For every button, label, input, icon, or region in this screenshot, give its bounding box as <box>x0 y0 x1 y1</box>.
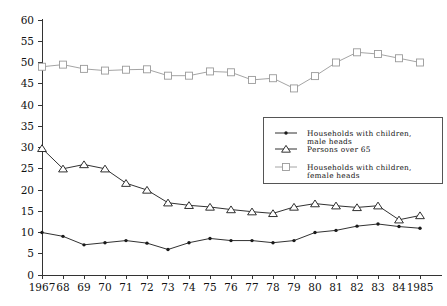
x-tick-label: 75 <box>203 281 216 293</box>
legend-item-label-line2: female heads <box>307 171 360 180</box>
dot-marker-icon <box>208 237 211 240</box>
y-tick-label: 30 <box>21 141 34 153</box>
chart-series-3 <box>39 49 424 92</box>
y-tick-label: 10 <box>21 226 34 238</box>
y-tick-label: 0 <box>27 269 34 281</box>
x-tick-label: 71 <box>119 281 132 293</box>
square-marker-icon <box>333 59 340 66</box>
triangle-marker-icon <box>143 186 152 193</box>
square-marker-icon <box>186 72 193 79</box>
line-chart: 051015202530354045505560 196768697071727… <box>0 0 447 306</box>
x-tick-label: 76 <box>224 281 238 293</box>
dot-marker-icon <box>334 229 337 232</box>
dot-marker-icon <box>376 222 379 225</box>
square-marker-icon <box>81 65 88 72</box>
dot-marker-icon <box>229 239 232 242</box>
triangle-marker-icon <box>38 145 47 152</box>
chart-series-1 <box>40 222 421 251</box>
dot-marker-icon <box>103 241 106 244</box>
series-line <box>42 224 420 250</box>
square-marker-icon <box>312 73 319 80</box>
square-marker-icon <box>375 51 382 58</box>
y-tick-label: 55 <box>21 35 34 47</box>
dot-marker-icon <box>397 225 400 228</box>
dot-marker-icon <box>250 239 253 242</box>
x-tick-label: 1985 <box>407 281 434 293</box>
triangle-marker-icon <box>416 212 425 219</box>
triangle-marker-icon <box>374 202 383 209</box>
square-marker-icon <box>165 72 172 79</box>
x-tick-label: 83 <box>371 281 384 293</box>
chart-container: 051015202530354045505560 196768697071727… <box>0 0 447 306</box>
square-marker-icon <box>249 76 256 83</box>
x-tick-label: 80 <box>308 281 321 293</box>
legend-item-label: Persons over 65 <box>307 145 371 154</box>
x-axis: 1967686970717273747576777879808182838419… <box>29 275 442 293</box>
x-tick-label: 79 <box>287 281 300 293</box>
dot-marker-icon <box>271 241 274 244</box>
y-tick-label: 15 <box>21 205 34 217</box>
dot-marker-icon <box>292 239 295 242</box>
y-tick-label: 5 <box>27 247 34 259</box>
square-marker-icon <box>144 66 151 73</box>
dot-marker-icon <box>187 241 190 244</box>
square-marker-icon <box>39 63 46 70</box>
y-tick-label: 60 <box>21 14 34 26</box>
dot-marker-icon <box>313 231 316 234</box>
dot-marker-icon <box>166 248 169 251</box>
y-tick-label: 40 <box>21 99 34 111</box>
square-marker-icon <box>207 68 214 75</box>
triangle-marker-icon <box>80 161 89 168</box>
y-tick-label: 20 <box>21 184 34 196</box>
square-marker-icon <box>396 55 403 62</box>
triangle-marker-icon <box>311 200 320 207</box>
x-tick-label: 77 <box>245 281 258 293</box>
x-tick-label: 70 <box>98 281 111 293</box>
dot-marker-icon <box>284 131 287 134</box>
square-marker-icon <box>354 49 361 56</box>
x-tick-label: 73 <box>161 281 174 293</box>
x-tick-label: 74 <box>182 281 196 293</box>
y-axis: 051015202530354045505560 <box>21 14 42 281</box>
square-marker-icon <box>291 85 298 92</box>
dot-marker-icon <box>418 227 421 230</box>
x-tick-label: 69 <box>77 281 90 293</box>
square-marker-icon <box>102 67 109 74</box>
y-tick-label: 45 <box>21 77 34 89</box>
y-tick-label: 50 <box>21 56 34 68</box>
y-tick-label: 35 <box>21 120 34 132</box>
square-marker-icon <box>417 59 424 66</box>
x-tick-label: 82 <box>350 281 363 293</box>
x-tick-label: 81 <box>329 281 342 293</box>
chart-legend: Households with children,male headsPerso… <box>263 117 442 183</box>
square-marker-icon <box>228 69 235 76</box>
x-tick-label: 68 <box>56 281 69 293</box>
square-marker-icon <box>60 61 67 68</box>
dot-marker-icon <box>61 235 64 238</box>
y-tick-label: 25 <box>21 162 34 174</box>
square-marker-icon <box>283 164 290 171</box>
x-tick-label: 84 <box>392 281 406 293</box>
x-tick-label: 72 <box>140 281 153 293</box>
square-marker-icon <box>123 66 130 73</box>
x-tick-label: 1967 <box>29 281 56 293</box>
triangle-marker-icon <box>164 199 173 206</box>
dot-marker-icon <box>145 241 148 244</box>
x-tick-label: 78 <box>266 281 279 293</box>
square-marker-icon <box>270 75 277 82</box>
dot-marker-icon <box>355 224 358 227</box>
dot-marker-icon <box>40 231 43 234</box>
dot-marker-icon <box>82 243 85 246</box>
dot-marker-icon <box>124 239 127 242</box>
